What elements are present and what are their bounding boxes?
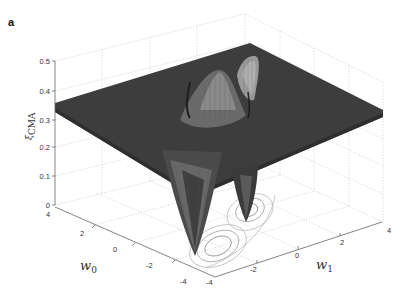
- z-tick: 0.4: [40, 87, 50, 96]
- w1-axis: -4 -2 0 2 4 w1: [206, 222, 391, 287]
- z-tick: 0.3: [40, 116, 50, 125]
- w0-tick: -2: [146, 261, 153, 270]
- z-tick: 0.1: [40, 172, 50, 181]
- surface: [55, 43, 383, 256]
- w1-tick: -4: [206, 278, 213, 287]
- z-tick: 0.5: [40, 57, 50, 66]
- z-axis-label: ξCMA: [24, 112, 37, 140]
- panel-label: a: [8, 16, 15, 28]
- z-axis: 0.5 0.4 0.3 0.2 0.1 0 ξCMA: [24, 57, 55, 210]
- surface-plot: a: [0, 0, 412, 303]
- w0-tick: 2: [80, 229, 84, 238]
- z-tick: 0.2: [40, 143, 50, 152]
- w0-axis-label: w0: [80, 258, 97, 275]
- w0-tick: -4: [180, 277, 187, 286]
- w1-tick: 0: [295, 251, 299, 260]
- w1-axis-label: w1: [316, 257, 333, 274]
- w0-tick: 0: [113, 245, 117, 254]
- svg-text:ξCMA: ξCMA: [24, 112, 37, 140]
- w1-tick: 2: [340, 238, 344, 247]
- w1-tick: -2: [250, 265, 257, 274]
- w0-tick: 4: [46, 210, 50, 219]
- z-tick: 0: [46, 201, 50, 210]
- w1-tick: 4: [387, 226, 391, 235]
